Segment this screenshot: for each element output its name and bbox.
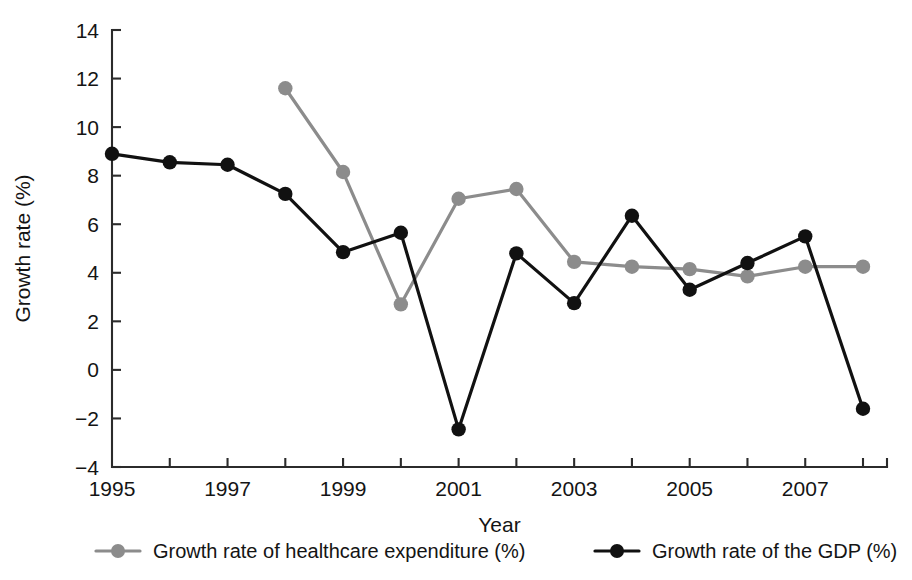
legend-label: Growth rate of healthcare expenditure (%…: [153, 540, 525, 562]
x-tick-label: 1997: [204, 477, 251, 500]
data-point: [278, 187, 292, 201]
data-point: [856, 260, 870, 274]
legend-marker: [610, 544, 624, 558]
data-point: [798, 229, 812, 243]
data-point: [567, 255, 581, 269]
x-tick-label: 2003: [551, 477, 598, 500]
data-point: [740, 256, 754, 270]
y-tick-label: 8: [87, 164, 99, 187]
series-gdp: [105, 147, 870, 437]
x-tick-label: 1995: [89, 477, 136, 500]
y-tick-label: 0: [87, 358, 99, 381]
y-tick-label: 10: [76, 116, 99, 139]
line-chart: −4−2024681012141995199719992001200320052…: [0, 0, 912, 580]
data-point: [740, 269, 754, 283]
legend-item: Growth rate of the GDP (%): [595, 540, 897, 562]
data-point: [567, 296, 581, 310]
data-point: [394, 297, 408, 311]
legend-item: Growth rate of healthcare expenditure (%…: [96, 540, 525, 562]
y-tick-label: −4: [75, 456, 99, 479]
x-tick-label: 1999: [320, 477, 367, 500]
legend-marker: [111, 544, 125, 558]
data-point: [220, 158, 234, 172]
data-point: [451, 192, 465, 206]
x-axis-title: Year: [478, 513, 520, 536]
legend-label: Growth rate of the GDP (%): [652, 540, 897, 562]
data-point: [336, 165, 350, 179]
y-tick-label: 6: [87, 213, 99, 236]
data-point: [682, 283, 696, 297]
chart-canvas: −4−2024681012141995199719992001200320052…: [0, 0, 912, 580]
data-point: [856, 402, 870, 416]
x-tick-label: 2007: [782, 477, 829, 500]
axes: −4−2024681012141995199719992001200320052…: [11, 19, 887, 537]
data-point: [509, 246, 523, 260]
x-tick-label: 2001: [435, 477, 482, 500]
y-tick-label: 2: [87, 310, 99, 333]
x-tick-label: 2005: [666, 477, 713, 500]
data-point: [163, 155, 177, 169]
y-axis-title: Growth rate (%): [11, 174, 34, 322]
y-tick-label: 12: [76, 67, 99, 90]
data-point: [625, 260, 639, 274]
data-point: [451, 422, 465, 436]
legend: Growth rate of healthcare expenditure (%…: [96, 540, 897, 562]
series-healthcare-expenditure: [278, 81, 870, 311]
data-point: [798, 260, 812, 274]
data-point: [105, 147, 119, 161]
data-point: [336, 245, 350, 259]
data-point: [394, 226, 408, 240]
data-point: [278, 81, 292, 95]
data-point: [682, 262, 696, 276]
y-axis-ticks: −4−202468101214: [75, 19, 121, 479]
x-axis-ticks: 1995199719992001200320052007: [89, 458, 887, 500]
y-tick-label: 14: [76, 19, 100, 42]
y-tick-label: 4: [87, 261, 99, 284]
y-tick-label: −2: [75, 407, 99, 430]
data-point: [625, 209, 639, 223]
data-point: [509, 182, 523, 196]
